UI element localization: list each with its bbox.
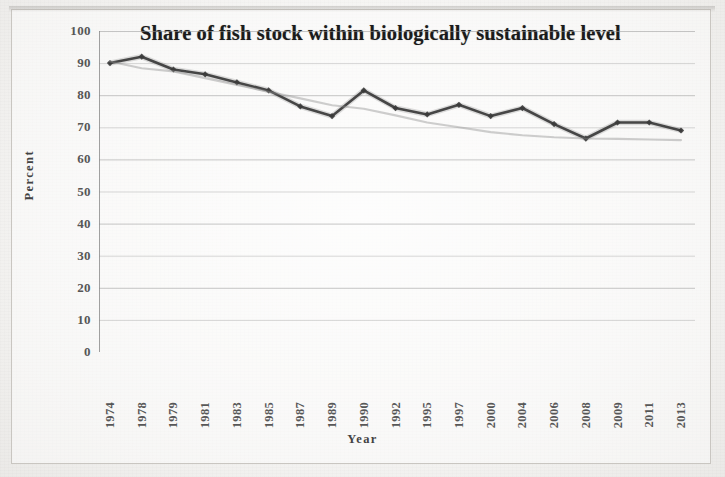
y-axis-tick-label: 50: [31, 184, 91, 200]
chart-svg: [99, 31, 695, 352]
x-axis-tick-label: 1995: [420, 402, 434, 428]
y-axis-tick-label: 70: [31, 119, 91, 135]
y-axis-tick-labels: 0102030405060708090100: [0, 0, 99, 377]
y-axis-tick-label: 90: [31, 55, 91, 71]
x-axis-tick-label: 1989: [325, 402, 339, 428]
y-axis-tick-label: 60: [31, 151, 91, 167]
series-halo: [110, 57, 681, 139]
x-axis-tick-label: 1983: [230, 402, 244, 428]
x-axis-tick-label: 1990: [357, 402, 371, 428]
y-axis-tick-label: 20: [31, 280, 91, 296]
x-axis-tick-label: 2013: [674, 402, 688, 428]
x-axis-tick-label: 1978: [135, 402, 149, 428]
x-axis-tick-label: 1981: [198, 402, 212, 428]
x-axis-tick-label: 2009: [611, 402, 625, 428]
x-axis-tick-label: 2004: [515, 402, 529, 428]
series-path: [110, 57, 681, 139]
y-axis-tick-label: 0: [31, 344, 91, 360]
x-axis-tick-label: 2011: [642, 402, 656, 428]
x-axis-tick-label: 1997: [452, 402, 466, 428]
x-axis-tick-label: 1992: [389, 402, 403, 428]
x-axis-tick-label: 1985: [262, 402, 276, 428]
figure-page: Share of fish stock within biologically …: [0, 0, 725, 477]
y-axis-tick-label: 10: [31, 312, 91, 328]
gridlines: [99, 32, 695, 353]
x-axis-tick-label: 2006: [547, 402, 561, 428]
y-axis-title: Percent: [22, 150, 37, 201]
y-axis-tick-label: 40: [31, 216, 91, 232]
x-axis-tick-labels: 1974197819791981198319851987198919901992…: [99, 358, 695, 428]
x-axis-tick-label: 2000: [484, 402, 498, 428]
y-axis-tick-label: 80: [31, 87, 91, 103]
plot-area: [99, 31, 695, 352]
y-axis-tick-label: 100: [31, 23, 91, 39]
x-axis-tick-label: 2008: [579, 402, 593, 428]
x-axis-title: Year: [0, 432, 725, 447]
x-axis-tick-label: 1974: [103, 402, 117, 428]
data-series: [107, 54, 684, 142]
y-axis-tick-label: 30: [31, 248, 91, 264]
x-axis-tick-label: 1987: [293, 402, 307, 428]
x-axis-tick-label: 1979: [166, 402, 180, 428]
